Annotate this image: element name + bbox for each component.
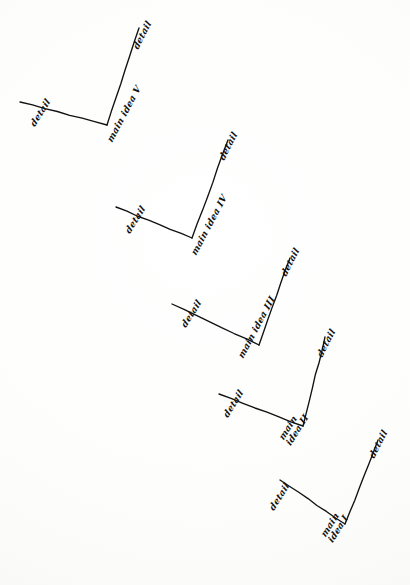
diagram-page: detaildetailmain idea Vdetaildetailmain …	[0, 0, 410, 585]
v-shape-group	[20, 28, 378, 524]
sketch-lines	[0, 0, 410, 585]
